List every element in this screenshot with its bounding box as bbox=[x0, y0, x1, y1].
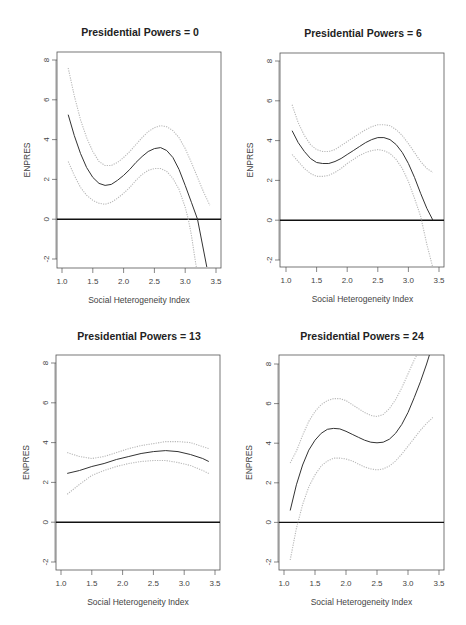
x-tick-label: 2.0 bbox=[342, 276, 354, 285]
x-tick-label: 2.0 bbox=[118, 277, 130, 286]
plot-panel-4: Presidential Powers = 24-202468ENPRES1.0… bbox=[244, 330, 445, 607]
y-tick-label: 8 bbox=[265, 58, 274, 63]
y-tick-label: 2 bbox=[265, 178, 274, 183]
plot-panel-2: Presidential Powers = 6-202468ENPRES1.01… bbox=[245, 27, 445, 304]
y-tick-label: -2 bbox=[265, 256, 274, 264]
y-axis-label: ENPRES bbox=[21, 445, 31, 480]
x-tick-label: 1.0 bbox=[55, 579, 67, 588]
x-tick-label: 3.0 bbox=[180, 277, 192, 286]
upper-confidence-band bbox=[292, 105, 433, 173]
y-axis: -202468ENPRES bbox=[22, 57, 57, 262]
plot-title: Presidential Powers = 6 bbox=[304, 27, 422, 39]
x-axis: 1.01.52.02.53.03.5Social Heterogeneity I… bbox=[280, 267, 445, 304]
y-tick-label: -2 bbox=[264, 558, 273, 566]
x-tick-label: 2.5 bbox=[371, 579, 383, 588]
x-axis: 1.01.52.02.53.03.5Social Heterogeneity I… bbox=[56, 268, 222, 305]
y-tick-label: 8 bbox=[41, 360, 50, 365]
x-tick-label: 3.0 bbox=[403, 276, 415, 285]
plot-area bbox=[280, 105, 444, 268]
y-tick-label: 4 bbox=[41, 440, 50, 445]
x-tick-label: 2.5 bbox=[372, 276, 384, 285]
x-axis-label: Social Heterogeneity Index bbox=[87, 597, 189, 607]
lower-confidence-band bbox=[67, 461, 209, 495]
y-tick-label: 4 bbox=[264, 440, 273, 445]
x-tick-label: 2.5 bbox=[149, 277, 161, 286]
x-axis-label: Social Heterogeneity Index bbox=[312, 294, 414, 304]
lower-confidence-band bbox=[68, 162, 196, 268]
x-axis: 1.01.52.02.53.03.5Social Heterogeneity I… bbox=[55, 570, 221, 607]
plot-area bbox=[56, 442, 220, 523]
x-tick-label: 1.0 bbox=[56, 277, 68, 286]
y-tick-label: 2 bbox=[264, 480, 273, 485]
x-axis-label: Social Heterogeneity Index bbox=[311, 597, 413, 607]
estimate-line bbox=[290, 354, 430, 510]
y-axis: -202468ENPRES bbox=[21, 360, 56, 565]
y-tick-label: 4 bbox=[265, 138, 274, 143]
plot-panel-3: Presidential Powers = 13-202468ENPRES1.0… bbox=[21, 330, 221, 607]
estimate-line bbox=[68, 115, 207, 267]
x-tick-label: 3.5 bbox=[433, 276, 445, 285]
x-tick-label: 1.0 bbox=[278, 579, 290, 588]
y-tick-label: 0 bbox=[41, 519, 50, 524]
y-tick-label: 2 bbox=[42, 177, 51, 182]
y-tick-label: 6 bbox=[265, 98, 274, 103]
x-tick-label: 3.0 bbox=[179, 579, 191, 588]
x-tick-label: 1.5 bbox=[87, 277, 99, 286]
plot-title: Presidential Powers = 0 bbox=[81, 26, 199, 38]
plot-area bbox=[279, 354, 444, 560]
x-tick-label: 2.0 bbox=[340, 579, 352, 588]
upper-confidence-band bbox=[290, 354, 417, 463]
x-axis-label: Social Heterogeneity Index bbox=[88, 295, 190, 305]
y-tick-label: 0 bbox=[42, 216, 51, 221]
x-tick-label: 1.0 bbox=[280, 276, 292, 285]
y-axis-label: ENPRES bbox=[245, 142, 255, 177]
x-tick-label: 3.5 bbox=[433, 579, 445, 588]
y-tick-label: 0 bbox=[264, 520, 273, 525]
plot-panel-1: Presidential Powers = 0-202468ENPRES1.01… bbox=[22, 26, 222, 305]
y-axis: -202468ENPRES bbox=[245, 58, 280, 263]
y-tick-label: 2 bbox=[41, 480, 50, 485]
y-tick-label: 6 bbox=[41, 400, 50, 405]
y-tick-label: 8 bbox=[264, 361, 273, 366]
y-tick-label: 4 bbox=[42, 137, 51, 142]
y-tick-label: 6 bbox=[42, 97, 51, 102]
x-tick-label: 2.5 bbox=[148, 579, 160, 588]
y-tick-label: -2 bbox=[42, 255, 51, 263]
x-tick-label: 3.5 bbox=[209, 579, 221, 588]
y-tick-label: 6 bbox=[264, 401, 273, 406]
y-tick-label: -2 bbox=[41, 558, 50, 566]
upper-confidence-band bbox=[68, 68, 210, 205]
chart-figure: Presidential Powers = 0-202468ENPRES1.01… bbox=[0, 0, 466, 625]
x-tick-label: 3.0 bbox=[402, 579, 414, 588]
plot-title: Presidential Powers = 24 bbox=[300, 330, 424, 342]
y-tick-label: 0 bbox=[265, 217, 274, 222]
x-axis: 1.01.52.02.53.03.5Social Heterogeneity I… bbox=[278, 570, 445, 607]
y-tick-label: 8 bbox=[42, 57, 51, 62]
x-tick-label: 3.5 bbox=[210, 277, 222, 286]
plot-title: Presidential Powers = 13 bbox=[77, 330, 201, 342]
y-axis-label: ENPRES bbox=[244, 445, 254, 480]
lower-confidence-band bbox=[292, 150, 433, 268]
x-tick-label: 1.5 bbox=[86, 579, 98, 588]
plot-area bbox=[57, 68, 221, 267]
y-axis: -202468ENPRES bbox=[244, 361, 279, 565]
x-tick-label: 1.5 bbox=[309, 579, 321, 588]
y-axis-label: ENPRES bbox=[22, 142, 32, 177]
x-tick-label: 2.0 bbox=[117, 579, 129, 588]
x-tick-label: 1.5 bbox=[311, 276, 323, 285]
upper-confidence-band bbox=[67, 442, 209, 459]
estimate-line bbox=[292, 131, 433, 221]
